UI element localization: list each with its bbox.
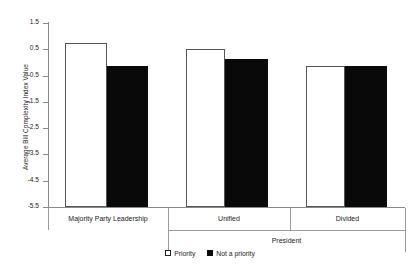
y-tick-mark [43,128,48,129]
y-tick-label: -3.5 [13,150,39,157]
bar-chart-figure: Average Bill Complexity Index Value 1.50… [0,0,420,265]
legend-item-priority: Priority [165,250,195,257]
y-tick-mark [43,49,48,50]
legend-item-not-a-priority: Not a priority [207,250,255,257]
y-tick-label: -0.5 [13,72,39,79]
category-label: Divided [290,208,405,230]
bar-priority [306,66,345,207]
y-tick-mark [43,154,48,155]
y-tick-label: -1.5 [13,98,39,105]
y-tick-label: -4.5 [13,177,39,184]
y-tick-label: 0.5 [13,45,39,52]
bar-priority [65,43,107,207]
bar-not-a-priority [225,59,268,207]
chart-legend: Priority Not a priority [0,246,420,260]
legend-label-not-a-priority: Not a priority [216,250,255,257]
legend-swatch-filled-icon [207,250,213,256]
category-label: Unified [168,208,290,230]
y-tick-mark [43,181,48,182]
y-axis-title: Average Bill Complexity Index Value [22,42,36,192]
y-tick-label: 1.5 [13,19,39,26]
y-axis-line [48,22,49,208]
category-separator [405,208,406,230]
category-label: Majority Party Leadership [48,208,168,230]
bar-priority [186,49,225,207]
bar-not-a-priority [107,66,148,207]
bar-not-a-priority [345,66,387,207]
y-tick-mark [43,76,48,77]
y-tick-label: -5.5 [13,203,39,210]
y-tick-mark [43,23,48,24]
y-tick-mark [43,102,48,103]
legend-label-priority: Priority [174,250,195,257]
y-tick-label: -2.5 [13,124,39,131]
legend-swatch-open-icon [165,250,171,256]
